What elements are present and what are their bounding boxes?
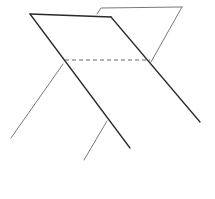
front-plane xyxy=(30,14,200,148)
diagram-canvas xyxy=(0,0,215,199)
back-plane-right-edge xyxy=(151,7,182,62)
back-plane-left-leg xyxy=(11,64,63,138)
front-plane-right-edge xyxy=(111,17,200,122)
back-plane-top-edge xyxy=(97,7,182,14)
front-plane-top-edge xyxy=(30,14,111,17)
front-plane-left-edge xyxy=(30,14,130,148)
back-plane xyxy=(11,7,182,160)
back-plane-middle-leg xyxy=(84,121,107,160)
